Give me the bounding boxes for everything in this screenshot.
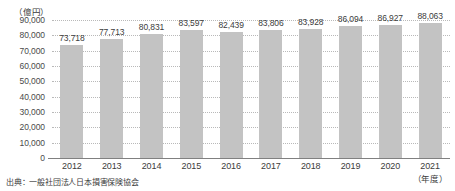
bar-value-label: 83,928: [298, 17, 323, 27]
x-axis-unit-label: （年度）: [413, 172, 448, 184]
bar-slot: 80,831: [140, 20, 163, 158]
y-tick-label: 70,000: [20, 46, 45, 55]
bar-value-label: 83,806: [258, 18, 283, 28]
bar: [379, 25, 402, 158]
bar-value-label: 77,713: [99, 27, 124, 37]
x-axis-tick-labels: 2012201320142015201620172018201920202021: [52, 161, 450, 175]
bar-value-label: 73,718: [59, 33, 84, 43]
x-tick-label: 2018: [301, 161, 321, 171]
bar: [140, 34, 163, 158]
x-tick-label: 2020: [380, 161, 400, 171]
bar-slot: 73,718: [60, 20, 83, 158]
y-tick-label: 90,000: [20, 16, 45, 25]
y-tick-label: 0: [40, 154, 45, 163]
x-tick-label: 2021: [420, 161, 440, 171]
bar-series: 73,71877,71380,83183,59782,43983,80683,9…: [52, 20, 450, 158]
bar: [339, 26, 362, 158]
source-note: 出典：一般社団法人日本損害保険協会: [6, 176, 139, 187]
y-tick-label: 50,000: [20, 77, 45, 86]
bar: [220, 32, 243, 158]
x-tick-label: 2014: [142, 161, 162, 171]
y-tick-label: 20,000: [20, 123, 45, 132]
bar-value-label: 86,927: [378, 13, 403, 23]
bar-value-label: 88,063: [417, 11, 442, 21]
x-axis-line: [48, 158, 450, 159]
bar: [419, 23, 442, 158]
bar-slot: 86,927: [379, 20, 402, 158]
x-tick-label: 2016: [221, 161, 241, 171]
x-tick-label: 2012: [62, 161, 82, 171]
y-tick-label: 30,000: [20, 108, 45, 117]
y-axis-tick-labels: 010,00020,00030,00040,00050,00060,00070,…: [0, 20, 48, 158]
y-tick-label: 60,000: [20, 62, 45, 71]
bar-value-label: 83,597: [179, 18, 204, 28]
bar: [60, 45, 83, 158]
x-tick-label: 2015: [181, 161, 201, 171]
bar: [299, 29, 322, 158]
bar-slot: 83,928: [299, 20, 322, 158]
bar-value-label: 82,439: [218, 20, 243, 30]
bar-slot: 83,597: [180, 20, 203, 158]
bar-slot: 88,063: [419, 20, 442, 158]
chart-figure: （億円） 010,00020,00030,00040,00050,00060,0…: [0, 0, 455, 191]
x-tick-label: 2013: [102, 161, 122, 171]
y-tick-label: 80,000: [20, 31, 45, 40]
y-tick-label: 10,000: [20, 138, 45, 147]
bar: [180, 30, 203, 158]
x-tick-label: 2017: [261, 161, 281, 171]
bar: [100, 39, 123, 158]
bar-slot: 82,439: [220, 20, 243, 158]
x-tick-label: 2019: [341, 161, 361, 171]
y-tick-label: 40,000: [20, 92, 45, 101]
bar: [259, 30, 282, 159]
bar-slot: 83,806: [259, 20, 282, 158]
bar-slot: 77,713: [100, 20, 123, 158]
bar-slot: 86,094: [339, 20, 362, 158]
bar-value-label: 80,831: [139, 22, 164, 32]
bar-value-label: 86,094: [338, 14, 363, 24]
